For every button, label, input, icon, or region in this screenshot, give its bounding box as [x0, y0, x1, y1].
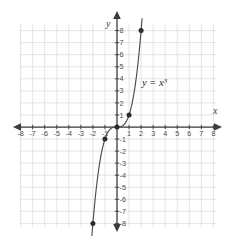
- y-tick-label: 6: [120, 50, 124, 59]
- y-tick-label: 2: [120, 99, 124, 108]
- y-tick-label: 5: [120, 62, 124, 71]
- x-tick-label: 2: [139, 129, 143, 138]
- x-tick-label: 6: [187, 129, 191, 138]
- x-tick-label: 5: [175, 129, 179, 138]
- y-tick-label: -6: [120, 195, 126, 204]
- x-axis-label: x: [212, 105, 218, 116]
- x-tick-label: -6: [41, 129, 47, 138]
- y-tick-label: -8: [120, 219, 126, 228]
- x-tick-label: 1: [127, 129, 131, 138]
- equation-exponent: 3: [163, 77, 168, 85]
- y-tick-label: -7: [120, 207, 126, 216]
- y-tick-label: 4: [120, 74, 124, 83]
- y-tick-label: 7: [120, 38, 124, 47]
- y-tick-label: -1: [120, 135, 126, 144]
- data-point-marker: [127, 112, 132, 117]
- x-tick-label: 8: [211, 129, 215, 138]
- graph-figure: -8-7-6-5-4-3-2-112345678 87654321-1-2-3-…: [0, 0, 235, 240]
- y-axis-arrow-up: [113, 11, 121, 19]
- x-tick-label: 7: [199, 129, 203, 138]
- data-point-marker: [102, 137, 107, 142]
- y-tick-label: -3: [120, 159, 126, 168]
- equation-annotation: y = x3: [141, 77, 168, 89]
- x-tick-label: -5: [54, 129, 60, 138]
- y-tick-label: -4: [120, 171, 126, 180]
- x-tick-label: -7: [29, 129, 35, 138]
- data-point-marker: [90, 221, 95, 226]
- equation-text: y = x: [141, 77, 164, 88]
- data-point-marker: [139, 28, 144, 33]
- x-tick-label: 3: [151, 129, 155, 138]
- y-tick-label: -2: [120, 147, 126, 156]
- x-tick-label: -8: [17, 129, 23, 138]
- data-point-marker: [115, 125, 120, 130]
- x-tick-label: -2: [90, 129, 96, 138]
- y-tick-label: 8: [120, 26, 124, 35]
- x-tick-label: -4: [66, 129, 72, 138]
- y-tick-label: 1: [120, 111, 124, 120]
- x-tick-label: -3: [78, 129, 84, 138]
- y-axis-label: y: [105, 18, 111, 29]
- x-tick-label: 4: [163, 129, 167, 138]
- coordinate-plane-svg: -8-7-6-5-4-3-2-112345678 87654321-1-2-3-…: [0, 0, 235, 240]
- y-tick-label: 3: [120, 86, 124, 95]
- y-tick-label: -5: [120, 183, 126, 192]
